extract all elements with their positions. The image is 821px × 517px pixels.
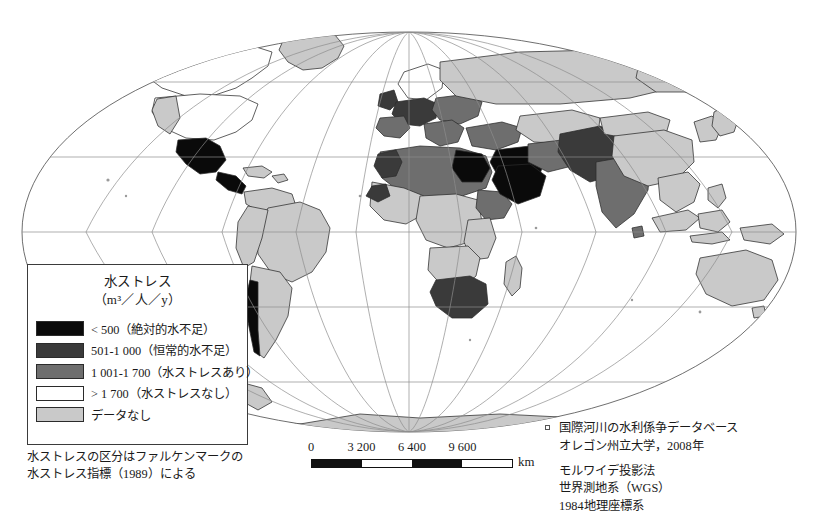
legend-swatch-absolute-scarcity — [36, 321, 84, 336]
legend-label-water-stress: 1 001‑1 700（水ストレスあり） — [91, 363, 258, 381]
legend-label-absolute-scarcity: < 500（絶対的水不足） — [91, 320, 215, 338]
legend-swatch-chronic-scarcity — [36, 343, 84, 358]
region-siberia-east[interactable] — [636, 56, 722, 92]
legend-note-line-2: 水ストレス指標（1989）による — [27, 466, 327, 483]
legend-swatch-water-stress — [36, 364, 84, 379]
island-dot-5 — [699, 311, 702, 314]
scale-bar-unit: km — [518, 455, 534, 470]
source-line-2: オレゴン州立大学，2008年 — [545, 438, 815, 456]
scale-tick-3200: 3 200 — [348, 440, 376, 455]
scale-segment-1 — [312, 460, 362, 467]
projection-info: モルワイデ投影法 世界測地系（WGS） 1984地理座標系 — [545, 463, 815, 516]
legend-label-no-stress: > 1 700（水ストレスなし） — [91, 384, 237, 402]
scale-segment-3 — [412, 460, 462, 467]
scale-tick-9600: 9 600 — [449, 440, 477, 455]
scale-segment-4 — [462, 460, 512, 467]
scale-tick-6400: 6 400 — [398, 440, 426, 455]
region-new-zealand[interactable] — [790, 292, 806, 316]
legend-note: 水ストレスの区分はファルケンマークの 水ストレス指標（1989）による — [27, 449, 327, 484]
legend-swatch-no-data — [36, 407, 84, 422]
island-dot-7 — [469, 339, 471, 341]
legend-label-chronic-scarcity: 501‑1 000（恒常的水不足） — [91, 341, 237, 359]
legend-item-water-stress[interactable]: 1 001‑1 700（水ストレスあり） — [28, 361, 247, 383]
island-dot-6 — [631, 299, 633, 301]
scale-bar-labels: 0 3 200 6 400 9 600 — [305, 440, 540, 457]
legend-title: 水ストレス — [28, 274, 247, 291]
legend-note-line-1: 水ストレスの区分はファルケンマークの — [27, 449, 327, 466]
legend-label-no-data: データなし — [91, 406, 151, 424]
region-alaska[interactable] — [116, 60, 156, 86]
legend-item-absolute-scarcity[interactable]: < 500（絶対的水不足） — [28, 318, 247, 340]
legend-item-no-stress[interactable]: > 1 700（水ストレスなし） — [28, 383, 247, 405]
projection-line-1: モルワイデ投影法 — [545, 463, 815, 481]
projection-line-3: 1984地理座標系 — [545, 498, 815, 516]
scale-bar: 0 3 200 6 400 9 600 km — [305, 440, 540, 485]
projection-line-2: 世界測地系（WGS） — [545, 480, 815, 498]
map-figure: 水ストレス （m³／人／y） < 500（絶対的水不足） 501‑1 000（恒… — [0, 0, 821, 517]
legend-items: < 500（絶対的水不足） 501‑1 000（恒常的水不足） 1 001‑1 … — [28, 318, 247, 426]
legend-item-no-data[interactable]: データなし — [28, 404, 247, 426]
scale-segment-2 — [362, 460, 412, 467]
bullet-square-icon — [545, 425, 550, 430]
island-dot-4 — [535, 227, 538, 230]
island-dot-1 — [106, 178, 109, 181]
source-credit: 国際河川の水利係争データベース オレゴン州立大学，2008年 モルワイデ投影法 … — [545, 420, 815, 516]
scale-bar-graphic — [311, 459, 513, 468]
legend-units: （m³／人／y） — [28, 292, 247, 308]
legend-swatch-no-stress — [36, 386, 84, 401]
scale-tick-0: 0 — [308, 440, 314, 455]
legend-item-chronic-scarcity[interactable]: 501‑1 000（恒常的水不足） — [28, 340, 247, 362]
legend: 水ストレス （m³／人／y） < 500（絶対的水不足） 501‑1 000（恒… — [27, 264, 248, 445]
island-dot-2 — [125, 195, 127, 197]
source-line-1: 国際河川の水利係争データベース — [545, 420, 815, 438]
